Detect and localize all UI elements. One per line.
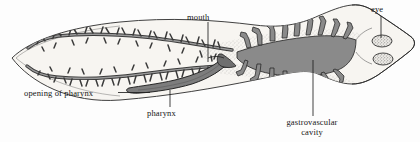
label-gastrovascular-cavity: gastrovascular cavity: [266, 117, 358, 137]
eyespot-upper: [372, 35, 392, 47]
label-mouth: mouth: [187, 12, 209, 22]
label-gastrovascular-line1: gastrovascular: [286, 117, 337, 127]
label-pharynx: pharynx: [147, 108, 176, 118]
label-opening-of-pharynx: opening of pharynx: [24, 88, 93, 98]
label-eye: eye: [371, 4, 383, 14]
eyespot-lower: [373, 53, 393, 65]
label-gastrovascular-line2: cavity: [301, 127, 323, 137]
